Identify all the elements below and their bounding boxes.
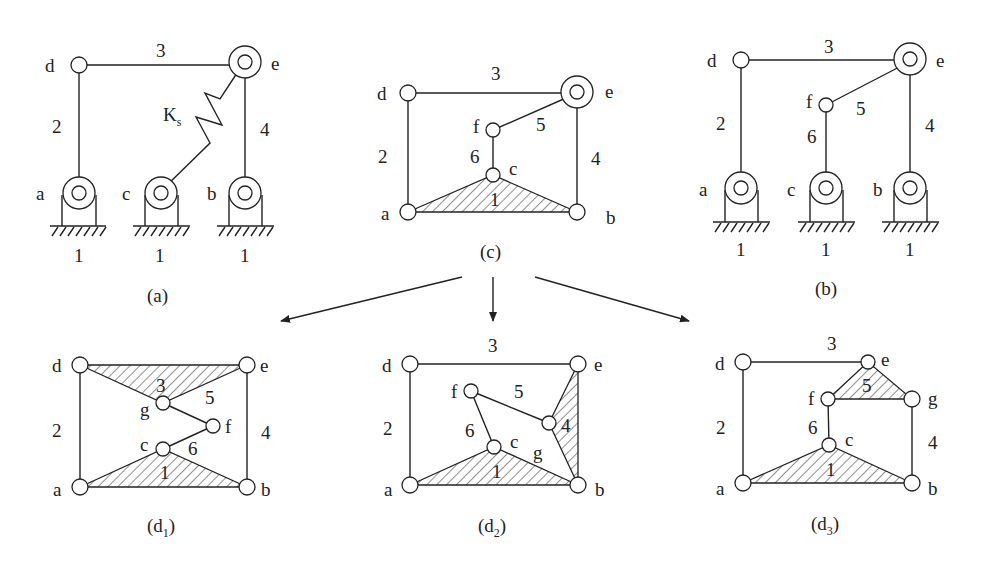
joint-c: [822, 438, 836, 452]
joint-b: [570, 477, 586, 493]
label-f: f: [806, 91, 813, 112]
label-ground-1c: 1: [155, 245, 165, 266]
label-e: e: [271, 53, 279, 74]
label-link-5: 5: [536, 114, 546, 135]
panel-b: d e f a c b 2 3 4 5 6 1 1 1 (b): [699, 36, 944, 300]
label-link-5: 5: [856, 98, 866, 119]
label-link-3: 3: [156, 40, 166, 61]
label-link-5: 5: [862, 375, 872, 396]
mechanism-figure: d e a c b 3 2 4 Ks 1 1 1 (a) d e f c a b…: [0, 0, 982, 573]
joint-e: [570, 356, 586, 372]
label-g: g: [533, 442, 543, 463]
joint-e: [903, 52, 917, 66]
label-ground-1b: 1: [240, 245, 250, 266]
label-c: c: [845, 429, 853, 450]
label-e: e: [605, 81, 613, 102]
label-g: g: [140, 399, 150, 420]
label-d: d: [715, 353, 725, 374]
label-link-3: 3: [824, 36, 834, 57]
label-link-2: 2: [52, 116, 62, 137]
label-f: f: [808, 388, 815, 409]
label-ground-1c: 1: [821, 239, 831, 260]
label-link-6: 6: [188, 438, 198, 459]
joint-a: [402, 477, 418, 493]
joint-d: [735, 354, 751, 370]
label-link-6: 6: [470, 146, 480, 167]
label-a: a: [36, 183, 45, 204]
label-b: b: [873, 179, 883, 200]
label-link-3: 3: [491, 63, 501, 84]
caption-d2: (d2): [478, 515, 506, 540]
label-link-4: 4: [261, 422, 271, 443]
joint-e: [239, 357, 255, 373]
label-link-4: 4: [925, 115, 935, 136]
label-c: c: [509, 158, 517, 179]
label-b: b: [595, 479, 605, 500]
panel-a: d e a c b 3 2 4 Ks 1 1 1 (a): [36, 40, 279, 307]
joint-c: [487, 440, 501, 454]
joint-g: [904, 391, 920, 407]
label-e: e: [260, 355, 268, 376]
label-a: a: [716, 478, 725, 499]
ground-support-c: [133, 177, 190, 236]
label-link-4: 4: [561, 415, 571, 436]
ground-support-b: [882, 172, 939, 232]
label-ground-1b: 1: [905, 239, 915, 260]
label-link-5: 5: [205, 387, 215, 408]
label-a: a: [381, 203, 390, 224]
joint-d: [71, 57, 87, 73]
caption-b: (b): [815, 278, 837, 300]
label-c: c: [787, 179, 795, 200]
arrow-c-to-d1: [281, 277, 462, 321]
label-link-2: 2: [52, 420, 62, 441]
label-link-5: 5: [514, 381, 524, 402]
joint-a: [735, 475, 751, 491]
label-b: b: [261, 479, 271, 500]
joint-a: [72, 479, 88, 495]
panel-d1: d e g f c a b 1 2 3 4 5 6 (d1): [52, 355, 271, 540]
joint-f: [486, 123, 500, 137]
label-b: b: [207, 183, 217, 204]
label-a: a: [384, 479, 393, 500]
label-ground-1a: 1: [74, 245, 84, 266]
label-link-4: 4: [928, 432, 938, 453]
joint-f: [821, 392, 835, 406]
label-c: c: [510, 431, 518, 452]
joint-d: [733, 52, 749, 68]
caption-c: (c): [480, 241, 501, 263]
ground-support-c: [798, 172, 855, 232]
label-c: c: [122, 183, 130, 204]
label-e: e: [936, 50, 944, 71]
arrow-c-to-d3: [535, 277, 689, 321]
label-f: f: [473, 116, 480, 137]
label-link-1: 1: [490, 189, 500, 210]
joint-f: [464, 384, 478, 398]
joint-b: [569, 204, 585, 220]
label-link-2: 2: [383, 418, 393, 439]
label-c: c: [140, 434, 148, 455]
caption-d1: (d1): [147, 515, 175, 540]
label-g: g: [928, 388, 938, 409]
label-d: d: [707, 50, 717, 71]
label-link-3: 3: [156, 375, 166, 396]
label-f: f: [225, 416, 232, 437]
panel-d3: d e f g c a b 1 2 3 4 5 6 (d3): [715, 333, 938, 538]
label-link-2: 2: [716, 113, 726, 134]
label-link-6: 6: [808, 417, 818, 438]
ground-support-b: [217, 177, 274, 236]
label-link-2: 2: [378, 146, 388, 167]
joint-a: [400, 204, 416, 220]
label-link-3: 3: [488, 335, 498, 356]
label-d: d: [52, 355, 62, 376]
label-d: d: [45, 55, 55, 76]
label-link-4: 4: [260, 119, 270, 140]
label-d: d: [382, 355, 392, 376]
label-link-1: 1: [160, 462, 170, 483]
label-link-6: 6: [465, 420, 475, 441]
caption-d3: (d3): [811, 513, 839, 538]
label-link-3: 3: [827, 333, 837, 354]
caption-a: (a): [147, 285, 168, 307]
label-ground-1a: 1: [736, 239, 746, 260]
ground-support-a: [713, 172, 770, 232]
joint-g: [542, 416, 556, 430]
